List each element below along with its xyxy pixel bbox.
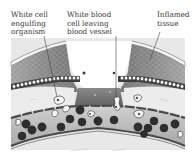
label-white-blood-cell-leaving: White blood cell leaving blood vessel <box>67 11 112 37</box>
label-inflamed-tissue: Inflamed tissue <box>157 11 190 28</box>
label-white-cell-engulfing: White cell engulfing organism <box>11 11 48 37</box>
inflammation-diagram: White cell engulfing organism White bloo… <box>0 0 196 155</box>
